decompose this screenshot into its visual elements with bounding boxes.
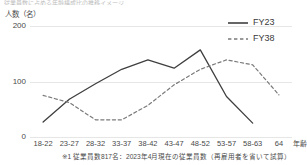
chart-title-fragment: 従業員数に占める年齢構成比の推移イメージ: [4, 0, 264, 5]
y-axis-unit-label: 人数（名）: [5, 10, 40, 19]
y-tick-100: 100: [13, 78, 26, 86]
legend-swatch-dashed-icon: [228, 35, 248, 43]
legend-label-fy23: FY23: [253, 18, 275, 27]
x-tick-64: 64: [275, 139, 283, 149]
x-tick-23-27: 23-27: [60, 139, 79, 149]
y-tick-0: 0: [22, 133, 26, 141]
x-tick-18-22: 18-22: [34, 139, 53, 149]
gridline-0: 0: [30, 137, 292, 138]
line-fy23: [43, 50, 253, 123]
y-tick-200: 200: [13, 22, 26, 30]
x-tick-48-52: 48-52: [191, 139, 210, 149]
x-tick-28-32: 28-32: [86, 139, 105, 149]
x-tick-38-42: 38-42: [138, 139, 157, 149]
legend-item-fy23[interactable]: FY23: [228, 18, 275, 27]
chart-figure: 従業員数に占める年齢構成比の推移イメージ 人数（名） 200 100 0 18-…: [0, 0, 307, 165]
x-tick-33-37: 33-37: [112, 139, 131, 149]
x-axis-labels: 18-2223-2728-3233-3738-4243-4748-5253-57…: [30, 139, 292, 150]
x-tick-53-57: 53-57: [217, 139, 236, 149]
legend-label-fy38: FY38: [253, 34, 275, 43]
legend-swatch-solid-icon: [228, 19, 248, 27]
line-fy38: [43, 60, 279, 120]
legend-item-fy38[interactable]: FY38: [228, 34, 275, 43]
x-tick-58-63: 58-63: [243, 139, 262, 149]
x-axis-unit-label: 年齢: [293, 139, 307, 149]
chart-legend: FY23 FY38: [228, 18, 275, 43]
chart-footnote: ※1 従業員数817名：2023年4月現在の従業員数（再雇用者を省いて試算）: [62, 152, 291, 161]
x-tick-43-47: 43-47: [165, 139, 184, 149]
